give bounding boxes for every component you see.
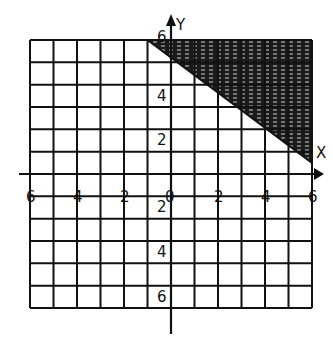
y-tick-label: 2 [157,131,167,149]
y-tick-label: 2 [157,198,167,216]
coordinate-graph: 6420246642246 X Y [0,0,333,345]
x-tick-label: 6 [308,188,318,206]
y-tick-label: 6 [157,28,167,46]
x-tick-label: 6 [26,188,36,206]
shaded-region [148,40,313,163]
x-tick-label: 4 [261,188,271,206]
x-tick-label: 4 [73,188,83,206]
x-axis-label: X [316,144,326,162]
x-tick-label: 2 [120,188,130,206]
x-tick-label: 2 [214,188,224,206]
y-axis-arrow-icon [166,14,176,26]
y-axis-label: Y [175,16,186,34]
y-tick-label: 4 [157,87,167,105]
y-tick-label: 4 [157,243,167,261]
x-axis-arrow-icon [314,168,324,180]
y-tick-label: 6 [157,288,167,306]
